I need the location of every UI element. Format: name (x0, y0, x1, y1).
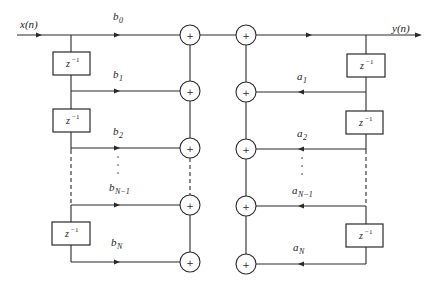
svg-text:−1: −1 (72, 113, 80, 121)
svg-text:z: z (65, 115, 70, 126)
svg-text:+: + (186, 201, 194, 211)
svg-text:N: N (116, 242, 123, 251)
adder-right-0: + (236, 25, 256, 45)
ellipsis-left (117, 156, 119, 174)
svg-text:+: + (242, 145, 250, 155)
ellipsis-right (301, 157, 303, 175)
b2-arrow-icon (114, 146, 120, 151)
coef-b2: b2 (113, 125, 123, 140)
adder-left-0: + (180, 25, 200, 45)
b0-arrow-icon (114, 33, 120, 38)
adder-right-3: + (236, 196, 256, 216)
svg-text:−1: −1 (366, 58, 374, 66)
svg-text:−1: −1 (72, 56, 80, 64)
aN-1-arrow-icon (298, 204, 304, 209)
b1-arrow-icon (114, 89, 120, 94)
coef-b0: b0 (113, 10, 123, 25)
iir-direct-form-1-diagram: + + + + + + + + + + z−1 z−1 z−1 z−1 z−1 … (0, 0, 431, 286)
adder-left-2: + (180, 138, 200, 158)
svg-text:+: + (242, 31, 250, 41)
adder-left-4: + (180, 252, 200, 272)
svg-text:−1: −1 (365, 228, 373, 236)
adder-left-3: + (180, 195, 200, 215)
coef-a2: a2 (297, 127, 307, 142)
coef-bN: bN (111, 236, 123, 251)
svg-text:+: + (186, 258, 194, 268)
adder-right-4: + (236, 254, 256, 274)
output-label: y(n) (391, 22, 410, 35)
svg-text:0: 0 (119, 16, 123, 25)
svg-text:−1: −1 (71, 226, 79, 234)
output-arrow-icon (415, 33, 422, 38)
output-mid-arrow-icon (306, 33, 312, 38)
a2-arrow-icon (298, 147, 304, 152)
svg-text:N: N (298, 247, 305, 256)
coef-bN-1: bN−1 (109, 181, 130, 196)
svg-text:z: z (359, 60, 364, 71)
svg-text:1: 1 (303, 76, 307, 85)
a1-arrow-icon (298, 90, 304, 95)
svg-text:+: + (186, 87, 194, 97)
svg-text:+: + (242, 88, 250, 98)
coef-aN: aN (293, 241, 305, 256)
svg-text:+: + (186, 31, 194, 41)
svg-text:z: z (358, 230, 363, 241)
svg-text:z: z (65, 58, 70, 69)
svg-text:+: + (242, 260, 250, 270)
svg-text:N−1: N−1 (297, 190, 313, 199)
bN-arrow-icon (114, 260, 120, 265)
adder-right-2: + (236, 139, 256, 159)
adder-left-1: + (180, 81, 200, 101)
svg-text:+: + (186, 144, 194, 154)
coef-a1: a1 (297, 70, 307, 85)
svg-text:−1: −1 (365, 115, 373, 123)
aN-arrow-icon (298, 262, 304, 267)
coef-aN-1: aN−1 (292, 184, 313, 199)
svg-text:z: z (64, 228, 69, 239)
adder-right-1: + (236, 82, 256, 102)
bN-1-arrow-icon (114, 203, 120, 208)
svg-text:2: 2 (119, 131, 123, 140)
svg-text:z: z (358, 117, 363, 128)
svg-text:N−1: N−1 (114, 187, 130, 196)
svg-text:+: + (242, 202, 250, 212)
svg-text:2: 2 (303, 133, 307, 142)
coef-b1: b1 (113, 68, 123, 83)
input-arrow-icon (36, 33, 42, 38)
svg-text:1: 1 (119, 74, 123, 83)
input-label: x(n) (19, 18, 38, 31)
